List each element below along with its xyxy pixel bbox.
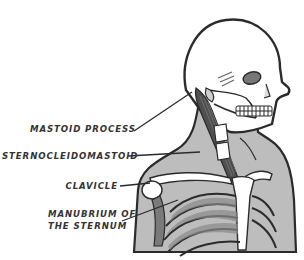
label-manubrium-line2: THE STERNUM — [48, 221, 127, 232]
label-manubrium-line1: MANUBRIUM OF — [48, 209, 136, 220]
teeth — [236, 106, 272, 116]
label-mastoid-process: MASTOID PROCESS — [30, 124, 132, 135]
leader-line-mastoid — [134, 92, 192, 131]
label-clavicle: CLAVICLE — [60, 181, 118, 192]
label-sternocleidomastoid: STERNOCLEIDOMASTOID — [2, 151, 126, 162]
